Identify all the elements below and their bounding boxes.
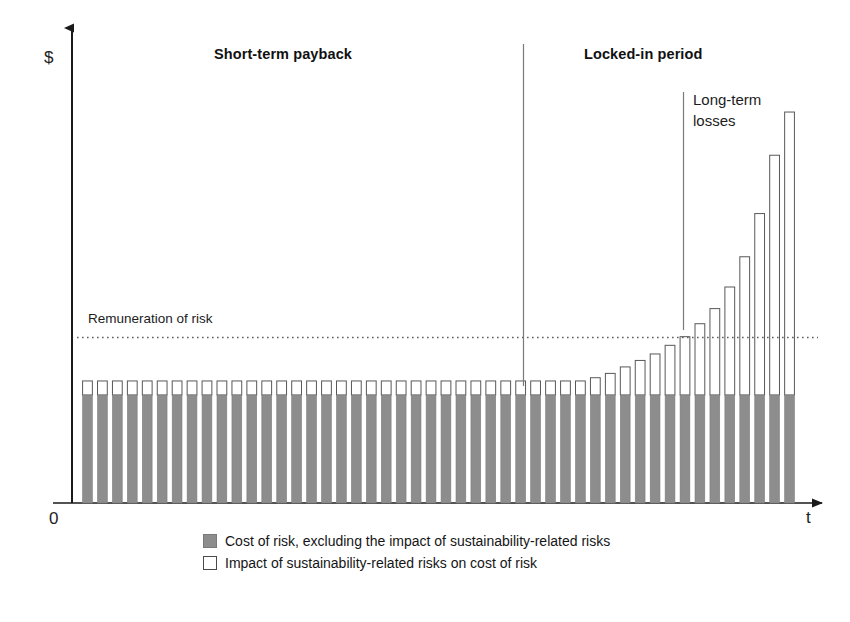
bar-segment-sustainability-impact: [785, 112, 795, 395]
bar-segment-cost-of-risk: [501, 395, 511, 503]
bar-segment-cost-of-risk: [725, 395, 735, 503]
legend-swatch-hollow-square: [203, 556, 217, 570]
section-title-locked-in: Locked-in period: [584, 46, 702, 63]
legend-item-cost-of-risk: Cost of risk, excluding the impact of su…: [203, 530, 723, 552]
bar-segment-sustainability-impact: [83, 381, 93, 395]
bar-segment-cost-of-risk: [755, 395, 765, 503]
bar-segment-sustainability-impact: [277, 381, 287, 395]
bar-segment-cost-of-risk: [426, 395, 436, 503]
bar-segment-sustainability-impact: [112, 381, 122, 395]
bar-segment-sustainability-impact: [710, 309, 720, 395]
bar-segment-sustainability-impact: [187, 381, 197, 395]
bar-segment-cost-of-risk: [785, 395, 795, 503]
bar-segment-sustainability-impact: [441, 381, 451, 395]
bar-segment-sustainability-impact: [665, 345, 675, 395]
bar-segment-cost-of-risk: [217, 395, 227, 503]
legend-item-sustainability-impact: Impact of sustainability-related risks o…: [203, 552, 723, 574]
bar-segment-sustainability-impact: [217, 381, 227, 395]
bar-segment-sustainability-impact: [202, 381, 212, 395]
bar-segment-sustainability-impact: [680, 337, 690, 395]
bar-segment-sustainability-impact: [590, 378, 600, 395]
bar-segment-cost-of-risk: [322, 395, 332, 503]
bar-segment-cost-of-risk: [516, 395, 526, 503]
bar-segment-cost-of-risk: [247, 395, 257, 503]
bar-segment-cost-of-risk: [351, 395, 361, 503]
bar-segment-cost-of-risk: [590, 395, 600, 503]
bar-segment-cost-of-risk: [202, 395, 212, 503]
bar-segment-sustainability-impact: [307, 381, 317, 395]
legend-label-sustainability-impact: Impact of sustainability-related risks o…: [225, 555, 537, 571]
bar-segment-sustainability-impact: [725, 287, 735, 395]
bar-segment-cost-of-risk: [635, 395, 645, 503]
bar-segment-sustainability-impact: [366, 381, 376, 395]
bar-segment-sustainability-impact: [695, 324, 705, 395]
section-title-short-term: Short-term payback: [214, 46, 352, 63]
long-term-losses-label-line2: losses: [693, 112, 736, 130]
bar-segment-sustainability-impact: [456, 381, 466, 395]
bar-segment-sustainability-impact: [157, 381, 167, 395]
legend-swatch-filled-square: [203, 534, 217, 548]
bar-segment-cost-of-risk: [665, 395, 675, 503]
bar-segment-sustainability-impact: [755, 214, 765, 395]
x-axis-label: t: [806, 508, 811, 528]
bar-segment-sustainability-impact: [127, 381, 137, 395]
bar-segment-cost-of-risk: [262, 395, 272, 503]
bar-segment-cost-of-risk: [471, 395, 481, 503]
remuneration-of-risk-label: Remuneration of risk: [88, 311, 213, 327]
bar-segment-cost-of-risk: [680, 395, 690, 503]
bar-segment-cost-of-risk: [292, 395, 302, 503]
bar-segment-cost-of-risk: [441, 395, 451, 503]
bar-segment-cost-of-risk: [486, 395, 496, 503]
bar-segment-sustainability-impact: [411, 381, 421, 395]
bar-segment-sustainability-impact: [292, 381, 302, 395]
bar-segment-cost-of-risk: [112, 395, 122, 503]
bar-segment-cost-of-risk: [187, 395, 197, 503]
bar-segment-sustainability-impact: [546, 381, 556, 395]
bar-segment-sustainability-impact: [650, 354, 660, 395]
bars-group: [83, 112, 795, 503]
bar-segment-cost-of-risk: [83, 395, 93, 503]
bar-segment-sustainability-impact: [262, 381, 272, 395]
bar-segment-sustainability-impact: [396, 381, 406, 395]
bar-segment-sustainability-impact: [561, 381, 571, 395]
chart-legend: Cost of risk, excluding the impact of su…: [203, 530, 723, 574]
bar-segment-sustainability-impact: [232, 381, 242, 395]
bar-segment-sustainability-impact: [142, 381, 152, 395]
bar-segment-cost-of-risk: [142, 395, 152, 503]
bar-segment-sustainability-impact: [172, 381, 182, 395]
bar-segment-cost-of-risk: [157, 395, 167, 503]
bar-segment-cost-of-risk: [605, 395, 615, 503]
bar-segment-sustainability-impact: [337, 381, 347, 395]
bar-segment-sustainability-impact: [576, 381, 586, 395]
bar-segment-cost-of-risk: [307, 395, 317, 503]
bar-segment-cost-of-risk: [620, 395, 630, 503]
bar-segment-cost-of-risk: [770, 395, 780, 503]
bar-segment-sustainability-impact: [501, 381, 511, 395]
bar-segment-sustainability-impact: [770, 155, 780, 395]
bar-segment-sustainability-impact: [635, 360, 645, 395]
bar-segment-cost-of-risk: [172, 395, 182, 503]
bar-segment-sustainability-impact: [426, 381, 436, 395]
bar-segment-sustainability-impact: [486, 381, 496, 395]
bar-segment-cost-of-risk: [710, 395, 720, 503]
bar-segment-cost-of-risk: [366, 395, 376, 503]
bar-segment-sustainability-impact: [351, 381, 361, 395]
bar-segment-cost-of-risk: [531, 395, 541, 503]
bar-segment-cost-of-risk: [456, 395, 466, 503]
bar-segment-cost-of-risk: [277, 395, 287, 503]
y-axis-label: $: [44, 48, 53, 68]
bar-segment-cost-of-risk: [127, 395, 137, 503]
bar-segment-cost-of-risk: [98, 395, 108, 503]
bar-segment-sustainability-impact: [471, 381, 481, 395]
bar-segment-sustainability-impact: [740, 257, 750, 395]
bar-segment-cost-of-risk: [396, 395, 406, 503]
bar-segment-sustainability-impact: [98, 381, 108, 395]
bar-segment-cost-of-risk: [740, 395, 750, 503]
bar-segment-sustainability-impact: [531, 381, 541, 395]
bar-segment-sustainability-impact: [605, 373, 615, 395]
bar-segment-cost-of-risk: [546, 395, 556, 503]
bar-segment-cost-of-risk: [561, 395, 571, 503]
bar-segment-cost-of-risk: [576, 395, 586, 503]
bar-segment-cost-of-risk: [411, 395, 421, 503]
bar-segment-sustainability-impact: [381, 381, 391, 395]
